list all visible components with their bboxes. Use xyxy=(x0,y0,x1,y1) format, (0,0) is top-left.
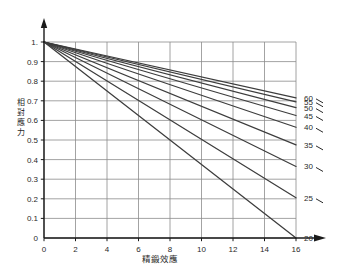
relative-stress-vs-forging-effect-chart: 02468101214161.0.90.80.70.60.50.40.30.20… xyxy=(0,0,337,273)
y-tick-label: 0 xyxy=(34,234,39,243)
y-tick-label: 0.2 xyxy=(27,195,39,204)
y-tick-label: 0.9 xyxy=(27,58,39,67)
series-end-labels xyxy=(316,99,323,203)
series-leader-dash-60 xyxy=(316,99,323,103)
series-leader-dash-25 xyxy=(316,199,323,203)
y-tick-label: 0.8 xyxy=(27,77,39,86)
series-leader-dash-30 xyxy=(316,167,323,171)
y-tick-label: 0.1 xyxy=(27,214,39,223)
series-end-label-30: 30 xyxy=(304,162,313,171)
y-tick-label: 0.3 xyxy=(27,175,39,184)
y-tick-label: 0.4 xyxy=(27,156,39,165)
series-end-label-40: 40 xyxy=(304,123,313,132)
series-leader-dash-35 xyxy=(316,146,323,150)
y-axis-title-char-2: 對 xyxy=(13,108,29,118)
x-axis-title-text: 精鍛效應 xyxy=(142,254,178,264)
series-end-label-20: 20 xyxy=(304,234,313,243)
series-end-label-25: 25 xyxy=(304,194,313,203)
series-leader-dash-55 xyxy=(316,103,323,107)
series-end-label-35: 35 xyxy=(304,141,313,150)
x-axis-title: 精鍛效應 xyxy=(0,252,337,264)
y-axis-arrowhead xyxy=(41,18,47,28)
y-axis-title: 相 對 應 力 xyxy=(13,98,29,138)
y-axis-title-char-4: 力 xyxy=(13,128,29,138)
series-leader-dash-45 xyxy=(316,117,323,121)
y-axis-title-char-1: 相 xyxy=(13,98,29,108)
chart-container: 02468101214161.0.90.80.70.60.50.40.30.20… xyxy=(0,0,337,273)
x-axis-arrowhead xyxy=(314,235,326,242)
y-tick-label: 1. xyxy=(31,38,38,47)
series-leader-dash-40 xyxy=(316,128,323,132)
series-leader-dash-50 xyxy=(316,109,323,113)
y-axis-title-char-3: 應 xyxy=(13,118,29,128)
series-end-label-45: 45 xyxy=(304,112,313,121)
